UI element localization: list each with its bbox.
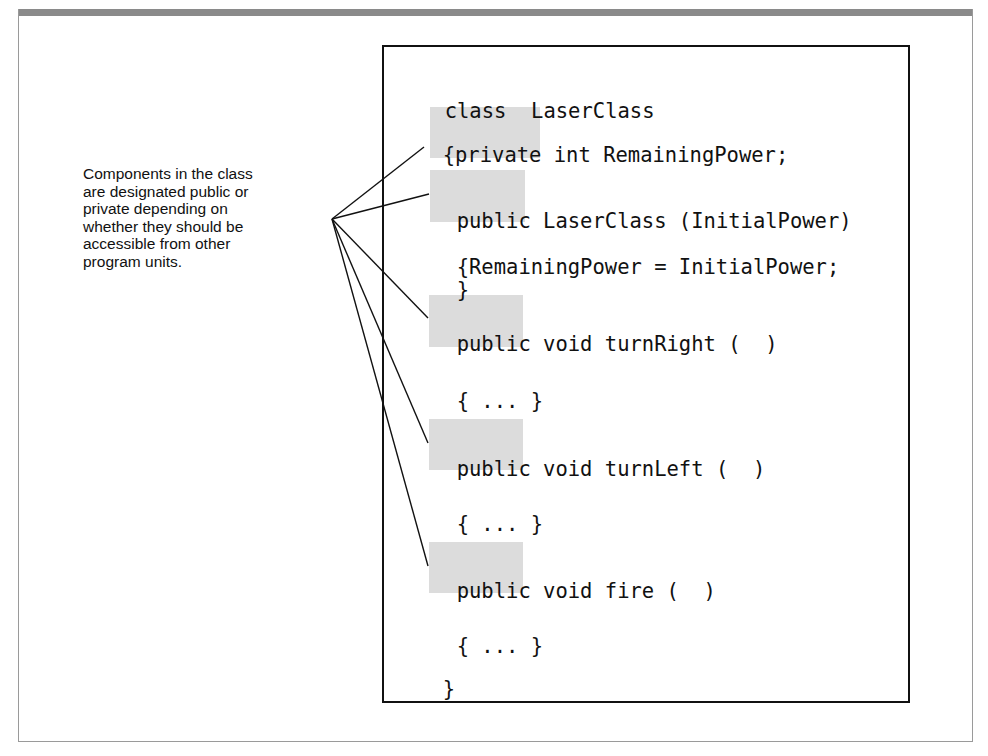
caption-line: accessible from other bbox=[83, 235, 343, 253]
caption-line: whether they should be bbox=[83, 218, 343, 236]
code-line-turnright: public void turnRight ( ) bbox=[432, 305, 778, 357]
method-body: { ... } bbox=[457, 512, 543, 536]
method-signature-fire: void fire ( ) bbox=[531, 579, 716, 603]
caption-line: Components in the class bbox=[83, 165, 343, 183]
figure-top-bar bbox=[19, 9, 972, 16]
method-body: { ... } bbox=[457, 389, 543, 413]
field-declaration: int RemainingPower; bbox=[541, 143, 788, 167]
code-line-private-field: {private int RemainingPower; bbox=[418, 116, 788, 168]
constructor-body: {RemainingPower = InitialPower; bbox=[457, 255, 840, 279]
caption-line: private depending on bbox=[83, 200, 343, 218]
close-brace: } bbox=[457, 278, 469, 302]
code-line-turnleft: public void turnLeft ( ) bbox=[432, 430, 765, 482]
caption-line: program units. bbox=[83, 253, 343, 271]
method-signature-turnleft: void turnLeft ( ) bbox=[531, 457, 766, 481]
method-body: { ... } bbox=[457, 634, 543, 658]
keyword-public: public bbox=[457, 332, 531, 356]
code-line-fire: public void fire ( ) bbox=[432, 552, 716, 604]
keyword-public: public bbox=[457, 457, 531, 481]
close-brace: } bbox=[443, 677, 455, 701]
code-line-turnright-body: { ... } bbox=[432, 362, 543, 414]
keyword-private: private bbox=[455, 143, 541, 167]
method-signature-turnright: void turnRight ( ) bbox=[531, 332, 778, 356]
open-brace: { bbox=[443, 143, 455, 167]
code-line-class-close: } bbox=[418, 650, 455, 702]
annotation-caption: Components in the class are designated p… bbox=[83, 165, 343, 271]
keyword-public: public bbox=[457, 579, 531, 603]
code-line-turnleft-body: { ... } bbox=[432, 485, 543, 537]
code-line-constructor-body: {RemainingPower = InitialPower; bbox=[432, 228, 839, 280]
code-line-constructor: public LaserClass (InitialPower) bbox=[432, 182, 852, 234]
code-line-constructor-close: } bbox=[432, 251, 469, 303]
caption-line: are designated public or bbox=[83, 183, 343, 201]
